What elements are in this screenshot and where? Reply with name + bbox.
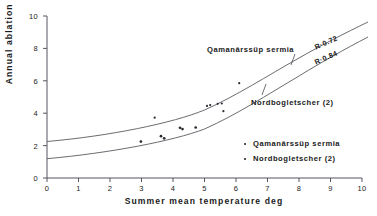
y-axis-title: Annual ablation m water [4,0,14,97]
ablation-temperature-chart: 0 2 4 6 8 10 0 1 2 3 4 5 6 7 8 9 10 Summ… [0,0,377,216]
x-tick-label-3: 3 [139,184,143,193]
y-tick-label-0: 0 [26,174,38,183]
x-tick-label-10: 10 [358,184,367,193]
x-tick-label-5: 5 [202,184,206,193]
legend-item-qamanarssup: Qamanârssüp sermia [240,136,340,151]
y-tick-marks [43,16,47,178]
x-tick-label-1: 1 [76,184,80,193]
legend-label-nordbogletscher: Nordbogletscher (2) [253,154,336,163]
x-tick-label-9: 9 [328,184,332,193]
x-tick-label-8: 8 [297,184,301,193]
y-tick-label-2: 2 [26,141,38,150]
legend-item-nordbogletscher: Nordbogletscher (2) [240,151,340,166]
legend-marker-small-dot-icon [240,140,250,147]
legend-marker-dot-icon [240,155,250,162]
x-tick-label-4: 4 [171,184,175,193]
legend-label-qamanarssup: Qamanârssüp sermia [253,139,340,148]
x-tick-label-2: 2 [108,184,112,193]
y-tick-label-6: 6 [26,76,38,85]
leader-line-qamanarssup [291,54,295,65]
x-tick-marks [47,178,362,182]
x-axis-title: Summer mean temperature deg [125,196,284,206]
curve-label-nordbogletscher: Nordbogletscher (2) [251,98,334,107]
plot-area [0,0,377,216]
x-tick-label-7: 7 [265,184,269,193]
x-tick-label-0: 0 [45,184,49,193]
leader-line-nordbogletscher [262,84,266,95]
y-tick-label-8: 8 [26,44,38,53]
legend: Qamanârssüp sermia Nordbogletscher (2) [240,136,340,166]
y-tick-label-10: 10 [22,12,38,21]
y-tick-label-4: 4 [26,109,38,118]
curve-label-qamanarssup: Qamanârssüp sermia [207,45,294,54]
x-tick-label-6: 6 [234,184,238,193]
